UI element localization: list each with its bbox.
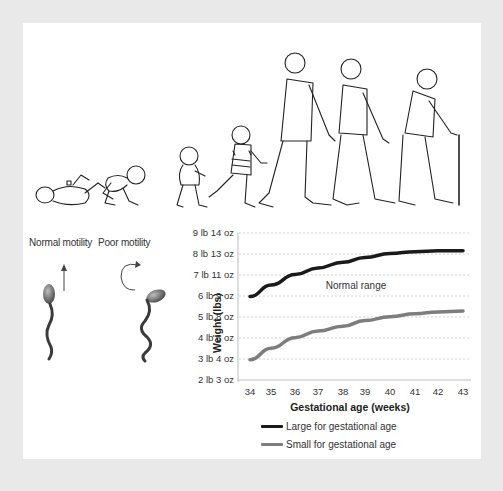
weight-chart: 2 lb 3 oz3 lb 4 oz4 lb 6 oz5 lb 8 oz6 lb… xyxy=(23,23,481,459)
y-tick-label: 8 lb 13 oz xyxy=(193,248,234,259)
small-line-swatch xyxy=(261,443,283,446)
x-tick-label: 36 xyxy=(290,386,301,397)
x-tick-label: 35 xyxy=(266,386,277,397)
legend-item-small: Small for gestational age xyxy=(261,439,396,450)
x-tick-label: 42 xyxy=(433,386,444,397)
x-tick-label: 38 xyxy=(338,386,349,397)
large-line-swatch xyxy=(261,425,283,428)
y-axis-title: Weight (lbs) xyxy=(211,293,223,353)
legend-label-small: Small for gestational age xyxy=(286,439,396,450)
normal-range-annotation: Normal range xyxy=(326,280,387,291)
x-tick-label: 37 xyxy=(313,386,324,397)
x-tick-label: 40 xyxy=(385,386,396,397)
y-tick-label: 2 lb 3 oz xyxy=(198,374,234,385)
small-for-age-line xyxy=(250,311,463,360)
figure-panel: Normal motility Poor motility xyxy=(23,23,481,459)
x-tick-label: 39 xyxy=(360,386,371,397)
legend-item-large: Large for gestational age xyxy=(261,421,397,432)
x-tick-label: 34 xyxy=(245,386,256,397)
legend-label-large: Large for gestational age xyxy=(286,421,397,432)
y-tick-label: 7 lb 11 oz xyxy=(194,269,235,280)
x-tick-label: 41 xyxy=(410,386,421,397)
chart-series xyxy=(250,251,463,360)
x-axis-ticks: 34353637383940414243 xyxy=(245,386,469,397)
x-axis-title: Gestational age (weeks) xyxy=(290,401,410,413)
y-tick-label: 9 lb 14 oz xyxy=(193,227,234,238)
x-tick-label: 43 xyxy=(458,386,469,397)
y-tick-label: 3 lb 4 oz xyxy=(198,353,234,364)
